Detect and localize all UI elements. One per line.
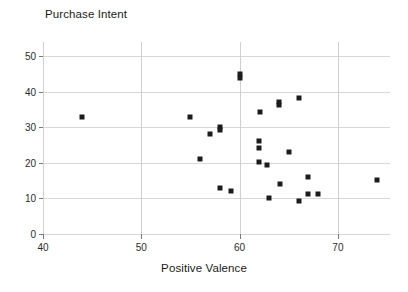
data-point bbox=[80, 114, 85, 119]
y-tick-label: 20 bbox=[25, 157, 36, 168]
gridline-x bbox=[43, 42, 44, 234]
data-point bbox=[265, 163, 270, 168]
data-point bbox=[257, 160, 262, 165]
data-point bbox=[237, 75, 242, 80]
data-point bbox=[217, 127, 222, 132]
x-tick-label: 40 bbox=[37, 242, 48, 253]
data-point bbox=[316, 192, 321, 197]
x-tick-mark bbox=[338, 234, 339, 239]
data-point bbox=[188, 114, 193, 119]
x-tick-mark bbox=[43, 234, 44, 239]
gridline-x bbox=[338, 42, 339, 234]
y-tick-label: 40 bbox=[25, 86, 36, 97]
data-point bbox=[258, 110, 263, 115]
y-tick-mark bbox=[39, 92, 43, 93]
data-point bbox=[296, 96, 301, 101]
y-tick-mark bbox=[39, 127, 43, 128]
gridline-x bbox=[141, 42, 142, 234]
x-axis-ticks: 40506070 bbox=[43, 234, 390, 256]
x-tick-mark bbox=[141, 234, 142, 239]
data-point bbox=[208, 131, 213, 136]
x-axis-label: Positive Valence bbox=[0, 262, 408, 274]
y-tick-label: 50 bbox=[25, 51, 36, 62]
x-tick-label: 50 bbox=[136, 242, 147, 253]
plot-area: 01020304050 bbox=[43, 42, 390, 234]
data-point bbox=[257, 138, 262, 143]
y-tick-mark bbox=[39, 198, 43, 199]
data-point bbox=[198, 156, 203, 161]
scatter-chart: Purchase Intent 01020304050 40506070 Pos… bbox=[0, 0, 408, 292]
chart-title: Purchase Intent bbox=[45, 8, 127, 20]
data-point bbox=[296, 199, 301, 204]
y-tick-mark bbox=[39, 163, 43, 164]
data-point bbox=[306, 192, 311, 197]
data-point bbox=[277, 182, 282, 187]
y-tick-label: 0 bbox=[30, 229, 36, 240]
y-tick-label: 10 bbox=[25, 193, 36, 204]
data-point bbox=[286, 149, 291, 154]
data-point bbox=[306, 174, 311, 179]
data-point bbox=[228, 189, 233, 194]
x-tick-label: 60 bbox=[234, 242, 245, 253]
data-point bbox=[375, 178, 380, 183]
x-tick-mark bbox=[240, 234, 241, 239]
x-tick-label: 70 bbox=[332, 242, 343, 253]
data-point bbox=[217, 185, 222, 190]
data-point bbox=[257, 145, 262, 150]
data-point bbox=[267, 195, 272, 200]
data-point bbox=[276, 102, 281, 107]
y-tick-label: 30 bbox=[25, 122, 36, 133]
y-tick-mark bbox=[39, 56, 43, 57]
